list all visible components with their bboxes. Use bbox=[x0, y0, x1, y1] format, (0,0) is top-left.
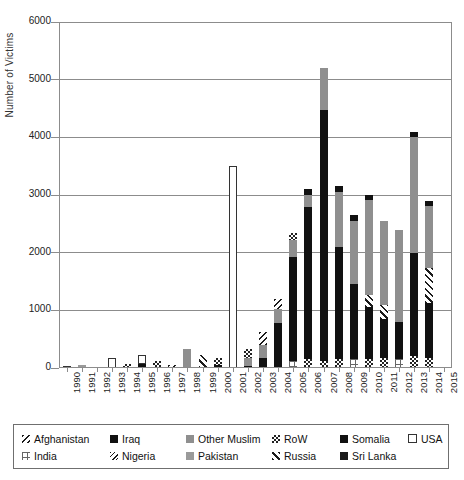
x-tick-label-2000: 2000 bbox=[222, 372, 233, 393]
chart-legend: AfghanistanIraqOther MuslimRoWSomaliaUSA… bbox=[13, 424, 449, 469]
legend-label: Nigeria bbox=[122, 450, 155, 462]
x-tick-mark bbox=[339, 368, 340, 372]
x-tick-label-2014: 2014 bbox=[433, 372, 444, 393]
y-tick-label: 6000 bbox=[0, 15, 51, 26]
x-tick-label-1990: 1990 bbox=[71, 372, 82, 393]
y-tick-mark bbox=[51, 195, 59, 196]
legend-item-row[interactable]: RoW bbox=[272, 433, 307, 445]
x-tick-label-1995: 1995 bbox=[146, 372, 157, 393]
x-tick-mark bbox=[384, 368, 385, 372]
x-tick-label-2015: 2015 bbox=[448, 372, 459, 393]
x-tick-label-1997: 1997 bbox=[176, 372, 187, 393]
legend-swatch-icon bbox=[272, 452, 280, 460]
x-tick-label-2009: 2009 bbox=[358, 372, 369, 393]
y-tick-label: 2000 bbox=[0, 246, 51, 257]
legend-swatch-icon bbox=[408, 434, 417, 443]
x-tick-mark bbox=[142, 368, 143, 372]
x-tick-mark bbox=[67, 368, 68, 372]
y-tick-mark bbox=[51, 137, 59, 138]
legend-label: Iraq bbox=[122, 433, 140, 445]
legend-item-afghanistan[interactable]: Afghanistan bbox=[22, 433, 89, 445]
legend-swatch-icon bbox=[186, 452, 194, 460]
chart-root: Number of Victims 0100020003000400050006… bbox=[0, 0, 464, 480]
x-tick-mark bbox=[278, 368, 279, 372]
x-tick-label-2008: 2008 bbox=[343, 372, 354, 393]
legend-label: Sri Lanka bbox=[352, 450, 396, 462]
legend-item-russia[interactable]: Russia bbox=[272, 450, 316, 462]
x-tick-mark bbox=[263, 368, 264, 372]
legend-label: Afghanistan bbox=[34, 433, 89, 445]
y-tick-mark bbox=[51, 22, 59, 23]
legend-label: Somalia bbox=[352, 433, 390, 445]
legend-label: Pakistan bbox=[198, 450, 238, 462]
x-tick-label-1992: 1992 bbox=[101, 372, 112, 393]
x-tick-mark bbox=[218, 368, 219, 372]
y-tick-mark bbox=[51, 310, 59, 311]
x-tick-mark bbox=[157, 368, 158, 372]
legend-swatch-icon bbox=[340, 435, 348, 443]
x-tick-label-2007: 2007 bbox=[328, 372, 339, 393]
legend-item-iraq[interactable]: Iraq bbox=[110, 433, 140, 445]
x-tick-label-2011: 2011 bbox=[388, 372, 399, 392]
y-tick-label: 5000 bbox=[0, 73, 51, 84]
x-tick-label-1991: 1991 bbox=[86, 372, 97, 393]
x-tick-label-1996: 1996 bbox=[161, 372, 172, 393]
x-tick-label-2005: 2005 bbox=[297, 372, 308, 393]
legend-item-usa[interactable]: USA bbox=[408, 433, 443, 445]
legend-row: AfghanistanIraqOther MuslimRoWSomaliaUSA bbox=[22, 430, 442, 447]
x-tick-label-2004: 2004 bbox=[282, 372, 293, 393]
x-tick-mark bbox=[127, 368, 128, 372]
x-tick-mark bbox=[187, 368, 188, 372]
x-tick-label-2013: 2013 bbox=[418, 372, 429, 393]
legend-item-somalia[interactable]: Somalia bbox=[340, 433, 390, 445]
legend-swatch-icon bbox=[22, 435, 30, 443]
legend-swatch-icon bbox=[186, 435, 194, 443]
x-tick-mark bbox=[354, 368, 355, 372]
legend-swatch-icon bbox=[110, 452, 118, 460]
x-tick-label-1993: 1993 bbox=[116, 372, 127, 393]
x-tick-label-1998: 1998 bbox=[191, 372, 202, 393]
x-tick-label-2001: 2001 bbox=[237, 372, 248, 393]
legend-swatch-icon bbox=[272, 435, 280, 443]
y-tick-mark bbox=[51, 368, 59, 369]
y-tick-label: 3000 bbox=[0, 188, 51, 199]
legend-label: Russia bbox=[284, 450, 316, 462]
legend-item-other-muslim[interactable]: Other Muslim bbox=[186, 433, 260, 445]
x-tick-mark bbox=[399, 368, 400, 372]
x-tick-mark bbox=[429, 368, 430, 372]
x-tick-label-1999: 1999 bbox=[207, 372, 218, 393]
y-tick-label: 4000 bbox=[0, 130, 51, 141]
plot-area: 0100020003000400050006000 bbox=[59, 22, 452, 368]
x-tick-mark bbox=[172, 368, 173, 372]
legend-label: India bbox=[34, 450, 57, 462]
x-tick-mark bbox=[324, 368, 325, 372]
legend-item-india[interactable]: India bbox=[22, 450, 57, 462]
x-tick-mark bbox=[444, 368, 445, 372]
x-tick-label-2003: 2003 bbox=[267, 372, 278, 393]
legend-swatch-icon bbox=[22, 452, 30, 460]
x-tick-mark bbox=[248, 368, 249, 372]
x-tick-label-2010: 2010 bbox=[373, 372, 384, 393]
plot-border bbox=[59, 22, 452, 368]
x-tick-label-2002: 2002 bbox=[252, 372, 263, 393]
legend-label: USA bbox=[421, 433, 443, 445]
legend-row: IndiaNigeriaPakistanRussiaSri Lanka bbox=[22, 447, 442, 464]
x-tick-mark bbox=[112, 368, 113, 372]
x-tick-label-2012: 2012 bbox=[403, 372, 414, 393]
y-tick-mark bbox=[51, 252, 59, 253]
x-axis-labels: 1990199119921993199419951996199719981999… bbox=[59, 372, 452, 418]
x-tick-mark bbox=[203, 368, 204, 372]
x-tick-mark bbox=[308, 368, 309, 372]
y-tick-label: 1000 bbox=[0, 303, 51, 314]
legend-label: Other Muslim bbox=[198, 433, 260, 445]
legend-item-sri-lanka[interactable]: Sri Lanka bbox=[340, 450, 396, 462]
legend-item-nigeria[interactable]: Nigeria bbox=[110, 450, 155, 462]
x-tick-mark bbox=[233, 368, 234, 372]
legend-item-pakistan[interactable]: Pakistan bbox=[186, 450, 238, 462]
x-tick-mark bbox=[369, 368, 370, 372]
x-tick-mark bbox=[293, 368, 294, 372]
x-tick-mark bbox=[97, 368, 98, 372]
x-tick-mark bbox=[82, 368, 83, 372]
x-tick-label-1994: 1994 bbox=[131, 372, 142, 393]
legend-swatch-icon bbox=[110, 435, 118, 443]
